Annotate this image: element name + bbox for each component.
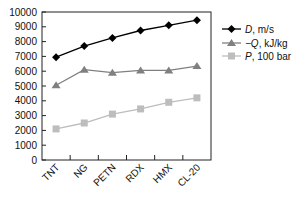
y-tick-label: 9000 bbox=[15, 21, 38, 32]
diamond-marker bbox=[228, 25, 236, 33]
diamond-marker bbox=[165, 21, 173, 29]
diamond-marker bbox=[80, 42, 88, 50]
diamond-marker bbox=[193, 16, 201, 24]
y-tick-label: 4000 bbox=[15, 95, 38, 106]
line-chart: 0100020003000400050006000700080009000100… bbox=[0, 0, 296, 197]
square-marker bbox=[193, 94, 200, 101]
diamond-marker bbox=[108, 34, 116, 42]
y-tick-label: 8000 bbox=[15, 36, 38, 47]
legend-label: D, m/s bbox=[245, 24, 274, 35]
y-tick-label: 10000 bbox=[9, 7, 37, 18]
triangle-marker bbox=[192, 62, 201, 69]
y-tick-label: 7000 bbox=[15, 51, 38, 62]
legend-label: P, 100 bar bbox=[245, 51, 292, 62]
square-marker bbox=[137, 105, 144, 112]
y-tick-label: 6000 bbox=[15, 66, 38, 77]
y-tick-label: 5000 bbox=[15, 81, 38, 92]
series-line bbox=[56, 66, 197, 85]
square-marker bbox=[228, 53, 235, 60]
x-tick-label: NG bbox=[71, 161, 90, 180]
y-tick-label: 0 bbox=[31, 155, 37, 166]
square-marker bbox=[165, 99, 172, 106]
y-axis: 0100020003000400050006000700080009000100… bbox=[9, 7, 46, 166]
legend-item: −Q, kJ/kg bbox=[222, 38, 288, 49]
series-line bbox=[56, 20, 197, 57]
y-tick-label: 3000 bbox=[15, 110, 38, 121]
x-tick-label: CL-20 bbox=[175, 161, 202, 188]
series-line bbox=[56, 98, 197, 129]
series-square bbox=[53, 94, 201, 132]
diamond-marker bbox=[52, 53, 60, 61]
triangle-marker bbox=[80, 66, 89, 73]
triangle-marker bbox=[52, 81, 61, 88]
x-tick-label: HMX bbox=[151, 161, 175, 185]
legend-item: P, 100 bar bbox=[222, 51, 292, 62]
x-tick-label: PETN bbox=[91, 162, 118, 189]
series-diamond bbox=[52, 16, 201, 61]
series-triangle bbox=[52, 62, 202, 88]
legend-label: −Q, kJ/kg bbox=[245, 38, 288, 49]
y-tick-label: 2000 bbox=[15, 125, 38, 136]
diamond-marker bbox=[137, 27, 145, 35]
series-lines bbox=[52, 16, 202, 132]
x-tick-label: TNT bbox=[40, 162, 62, 184]
square-marker bbox=[81, 120, 88, 127]
x-tick-label: RDX bbox=[123, 161, 146, 184]
legend: D, m/s−Q, kJ/kgP, 100 bar bbox=[222, 24, 292, 62]
legend-item: D, m/s bbox=[222, 24, 274, 35]
y-tick-label: 1000 bbox=[15, 140, 38, 151]
square-marker bbox=[53, 125, 60, 132]
square-marker bbox=[109, 111, 116, 118]
